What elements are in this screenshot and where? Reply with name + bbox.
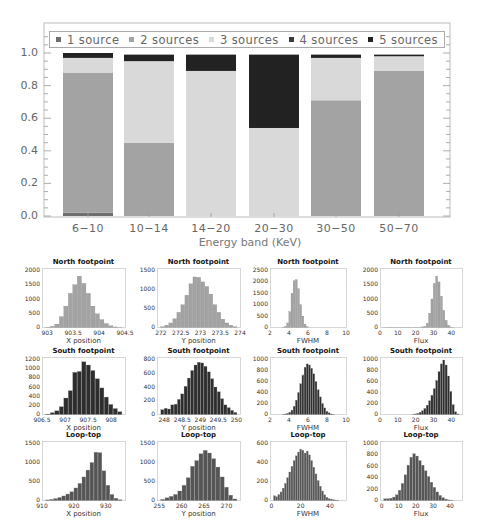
legend-label: 5 sources (379, 33, 438, 47)
y-tick-label: 1000 (20, 458, 40, 465)
legend-swatch-icon (368, 37, 373, 42)
x-tick-label: 930 (94, 502, 118, 509)
x-tick-label: 0 (259, 502, 283, 509)
bar-segment (311, 100, 361, 216)
y-tick-label: 1000 (20, 364, 40, 371)
panel-title: Loop-top (42, 431, 125, 439)
x-tick-label: 20−30 (244, 222, 304, 235)
bar-segment (311, 55, 361, 58)
bar-segment (249, 128, 299, 216)
histogram-canvas (42, 268, 127, 329)
bar-segment (124, 61, 174, 142)
bar-segment (63, 53, 113, 58)
panel-title: North footpoint (42, 258, 125, 266)
panel-x-axis-label: Flux (380, 510, 462, 518)
y-tick-label: 200 (248, 399, 268, 406)
y-tick-label: 1000 (248, 355, 268, 362)
y-tick-label: 0.8 (8, 79, 38, 92)
legend-item: 5 sources (368, 33, 438, 47)
chart-legend: 1 source2 sources3 sources4 sources5 sou… (49, 31, 445, 48)
y-tick-label: 800 (358, 366, 378, 373)
x-tick-label: 14−20 (181, 222, 241, 235)
x-tick-label: 20 (289, 502, 313, 509)
y-tick-label: 400 (358, 473, 378, 480)
y-tick-label: 600 (248, 439, 268, 446)
y-tick-label: 2000 (248, 277, 268, 284)
x-axis-label: Energy band (KeV) (150, 236, 350, 249)
histogram-canvas (380, 268, 464, 329)
x-tick-label: 40 (438, 502, 462, 509)
panel-title: North footpoint (157, 258, 240, 266)
panel-title: South footpoint (157, 347, 240, 355)
x-tick-label: 265 (192, 502, 216, 509)
bar-10-14 (124, 55, 174, 216)
y-tick-label: 400 (20, 392, 40, 399)
bar-6-10 (63, 53, 113, 216)
x-tick-label: 270 (215, 502, 239, 509)
y-tick-label: 200 (248, 477, 268, 484)
bar-segment (186, 71, 236, 216)
y-tick-label: 800 (358, 450, 378, 457)
y-tick-label: 400 (248, 458, 268, 465)
bar-20-30 (249, 55, 299, 216)
panel-x-axis-label: X position (42, 510, 125, 518)
y-tick-label: 1.0 (8, 46, 38, 59)
legend-label: 1 source (67, 33, 119, 47)
y-tick-label: 200 (135, 396, 155, 403)
bar-segment (186, 55, 236, 71)
y-tick-label: 400 (248, 388, 268, 395)
y-tick-label: 500 (20, 477, 40, 484)
x-tick-label: 274 (228, 329, 252, 336)
y-tick-label: 0.6 (8, 111, 38, 124)
x-tick-label: 906.5 (30, 416, 54, 423)
bar-segment (249, 55, 299, 128)
legend-swatch-icon (289, 37, 294, 42)
y-tick-label: 0.2 (8, 176, 38, 189)
legend-item: 3 sources (209, 33, 279, 47)
x-tick-label: 908 (99, 416, 123, 423)
y-tick-label: 500 (20, 309, 40, 316)
y-tick-label: 500 (248, 312, 268, 319)
y-tick-label: 1500 (20, 439, 40, 446)
legend-swatch-icon (56, 37, 61, 42)
histogram-canvas (42, 357, 127, 416)
y-tick-label: 1000 (358, 295, 378, 302)
y-tick-label: 600 (358, 377, 378, 384)
bar-segment (374, 56, 424, 71)
y-tick-label: 200 (358, 485, 378, 492)
bar-segment (311, 58, 361, 100)
x-tick-label: 40 (439, 416, 463, 423)
panel-x-axis-label: Y position (157, 510, 240, 518)
x-tick-label: 904.5 (113, 329, 137, 336)
legend-label: 4 sources (300, 33, 359, 47)
legend-item: 2 sources (129, 33, 199, 47)
panel-title: South footpoint (270, 347, 346, 355)
y-tick-label: 1000 (358, 355, 378, 362)
x-tick-label: 920 (62, 502, 86, 509)
legend-swatch-icon (129, 37, 134, 42)
x-tick-label: 903 (35, 329, 59, 336)
panel-x-axis-label: X position (42, 337, 125, 345)
y-tick-label: 1500 (135, 439, 155, 446)
histogram-canvas (270, 441, 348, 502)
x-tick-label: 907 (53, 416, 77, 423)
panel-title: North footpoint (270, 258, 346, 266)
x-tick-label: 250 (224, 416, 248, 423)
histogram-canvas (157, 441, 242, 502)
x-tick-label: 10 (334, 329, 358, 336)
bar-14-20 (186, 55, 236, 216)
legend-label: 2 sources (140, 33, 199, 47)
panel-title: Loop-top (270, 431, 346, 439)
panel-x-axis-label: FWHM (270, 510, 346, 518)
bar-segment (374, 71, 424, 216)
x-tick-label: 40 (439, 329, 463, 336)
panel-title: North footpoint (380, 258, 462, 266)
x-tick-label: 903.5 (61, 329, 85, 336)
y-tick-label: 600 (358, 462, 378, 469)
y-tick-label: 1000 (358, 439, 378, 446)
x-tick-label: 50−70 (369, 222, 429, 235)
y-tick-label: 1500 (248, 289, 268, 296)
y-tick-label: 2000 (358, 266, 378, 273)
y-tick-label: 2000 (20, 266, 40, 273)
stacked-bar-chart: 1 source2 sources3 sources4 sources5 sou… (0, 0, 485, 250)
